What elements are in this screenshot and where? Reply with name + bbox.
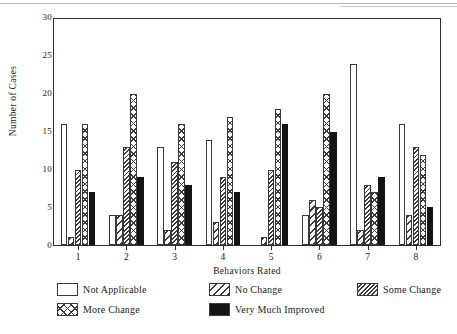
legend-row-2: More Change Very Much Improved	[57, 301, 457, 318]
bar	[157, 147, 163, 245]
bar	[137, 177, 143, 245]
legend-item-no-change: No Change	[209, 281, 282, 298]
bar	[261, 237, 267, 245]
y-tick-label: 10	[30, 165, 52, 174]
bar	[275, 109, 281, 245]
x-tick-label: 6	[307, 252, 331, 262]
bar	[427, 207, 433, 245]
x-tick-mark	[126, 246, 127, 250]
x-tick-label: 3	[163, 252, 187, 262]
bar	[364, 185, 370, 245]
bar	[302, 215, 308, 245]
bar	[116, 215, 122, 245]
y-tick-label: 20	[30, 89, 52, 98]
bar	[123, 147, 129, 245]
bar	[378, 177, 384, 245]
bar	[220, 177, 226, 245]
y-tick-label: 30	[30, 13, 52, 22]
bar	[282, 124, 288, 245]
legend-label-some-change: Some Change	[383, 284, 441, 295]
scan-artifact-line	[0, 3, 457, 4]
x-tick-mark	[319, 246, 320, 250]
bar	[206, 140, 212, 245]
y-axis-ticks: 051015202530	[22, 18, 52, 246]
x-tick-mark	[175, 246, 176, 250]
legend-swatch-no-change	[209, 283, 230, 296]
legend-label-more-change: More Change	[83, 304, 140, 315]
legend-swatch-not-applicable	[57, 283, 78, 296]
bar	[109, 215, 115, 245]
legend-label-not-applicable: Not Applicable	[83, 284, 147, 295]
bar	[178, 124, 184, 245]
legend-label-no-change: No Change	[235, 284, 282, 295]
legend-item-more-change: More Change	[57, 301, 140, 318]
bar	[234, 192, 240, 245]
bar-chart-figure: 051015202530 Number of Cases Behaviors R…	[0, 0, 457, 334]
legend-row-1: Not Applicable No Change Some Change	[57, 281, 457, 298]
bar	[309, 200, 315, 245]
x-tick-mark	[223, 246, 224, 250]
legend-swatch-more-change	[57, 303, 78, 316]
bar	[61, 124, 67, 245]
x-tick-label: 5	[259, 252, 283, 262]
chart-legend: Not Applicable No Change Some Change Mor…	[57, 281, 457, 327]
y-tick-label: 0	[30, 241, 52, 250]
x-axis-title: Behaviors Rated	[53, 266, 441, 276]
x-tick-label: 4	[211, 252, 235, 262]
bar	[357, 230, 363, 245]
bar	[413, 147, 419, 245]
bar	[316, 207, 322, 245]
x-tick-label: 8	[404, 252, 428, 262]
bar	[268, 170, 274, 245]
bar	[130, 94, 136, 245]
legend-label-very-much-improved: Very Much Improved	[235, 304, 325, 315]
bar	[227, 117, 233, 245]
scan-artifact-line-short	[340, 6, 457, 7]
y-axis-title: Number of Cases	[8, 41, 18, 161]
bar	[420, 155, 426, 245]
bar	[406, 215, 412, 245]
bar	[371, 192, 377, 245]
bar	[75, 170, 81, 245]
bar	[330, 132, 336, 245]
x-tick-mark	[368, 246, 369, 250]
legend-item-some-change: Some Change	[357, 281, 441, 298]
bar	[171, 162, 177, 245]
x-tick-mark	[78, 246, 79, 250]
y-tick-label: 15	[30, 127, 52, 136]
legend-item-very-much-improved: Very Much Improved	[209, 301, 325, 318]
x-tick-label: 1	[66, 252, 90, 262]
x-tick-mark	[416, 246, 417, 250]
x-tick-label: 7	[356, 252, 380, 262]
bar	[399, 124, 405, 245]
y-tick-label: 5	[30, 203, 52, 212]
legend-swatch-some-change	[357, 283, 378, 296]
legend-item-not-applicable: Not Applicable	[57, 281, 147, 298]
x-tick-mark	[271, 246, 272, 250]
bar	[89, 192, 95, 245]
bar	[185, 185, 191, 245]
bar	[213, 222, 219, 245]
bar	[68, 237, 74, 245]
y-tick-label: 25	[30, 51, 52, 60]
x-tick-label: 2	[114, 252, 138, 262]
bar	[323, 94, 329, 245]
bar	[350, 64, 356, 245]
bar	[82, 124, 88, 245]
bar	[164, 230, 170, 245]
legend-swatch-very-much-improved	[209, 303, 230, 316]
bars-layer	[54, 19, 440, 245]
